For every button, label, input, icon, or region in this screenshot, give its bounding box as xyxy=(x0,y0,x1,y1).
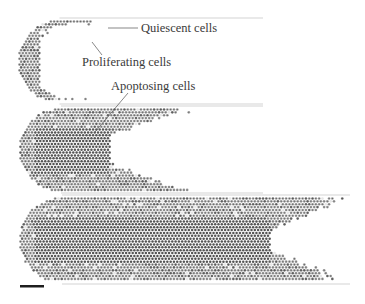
cell-nucleus xyxy=(60,264,61,265)
cell-nucleus xyxy=(30,247,31,248)
apoptosing-cell xyxy=(130,243,133,246)
apoptosing-cell xyxy=(145,217,148,220)
apoptosing-cell xyxy=(204,240,207,243)
apoptosing-cell xyxy=(120,243,123,246)
apoptosing-cell xyxy=(240,235,243,238)
apoptosing-cell xyxy=(82,151,85,154)
apoptosing-cell xyxy=(209,237,212,240)
apoptosing-cell xyxy=(183,232,186,235)
cell-nucleus xyxy=(144,115,145,116)
apoptosing-cell xyxy=(98,229,101,232)
apoptosing-cell xyxy=(151,252,154,255)
cell-nucleus xyxy=(286,204,287,205)
cell-nucleus xyxy=(306,267,307,268)
apoptosing-cell xyxy=(150,249,153,252)
cell-nucleus xyxy=(116,207,117,208)
apoptosing-cell xyxy=(97,131,100,134)
cell-nucleus xyxy=(34,78,35,79)
apoptosing-cell xyxy=(117,220,120,223)
apoptosing-cell xyxy=(151,235,154,238)
apoptosing-cell xyxy=(214,223,217,226)
apoptosing-cell xyxy=(138,258,141,261)
cell-nucleus xyxy=(33,218,34,219)
cell-nucleus xyxy=(124,109,125,110)
cell-nucleus xyxy=(243,204,244,205)
cell-nucleus xyxy=(66,187,67,188)
cell-nucleus xyxy=(24,56,25,57)
cell-nucleus xyxy=(315,198,316,199)
apoptosing-cell xyxy=(158,240,161,243)
cell-nucleus xyxy=(276,221,277,222)
apoptosing-cell xyxy=(103,232,106,235)
cell-nucleus xyxy=(37,61,38,62)
cell-nucleus xyxy=(266,215,267,216)
apoptosing-cell xyxy=(95,229,98,232)
cell-nucleus xyxy=(70,207,71,208)
cell-nucleus xyxy=(129,264,130,265)
apoptosing-cell xyxy=(108,163,111,166)
apoptosing-cell xyxy=(97,137,100,140)
cell-nucleus xyxy=(136,201,137,202)
cell-nucleus xyxy=(276,198,277,199)
cell-nucleus xyxy=(34,38,35,39)
cell-nucleus xyxy=(76,181,77,182)
apoptosing-cell xyxy=(237,252,240,255)
apoptosing-cell xyxy=(173,232,176,235)
cell-nucleus xyxy=(287,201,288,202)
cell-nucleus xyxy=(144,278,145,279)
empty-site xyxy=(303,275,306,278)
cell-nucleus xyxy=(178,276,179,277)
cell-nucleus xyxy=(106,207,107,208)
apoptosing-cell xyxy=(100,249,103,252)
cell-nucleus xyxy=(98,109,99,110)
cell-nucleus xyxy=(185,270,186,271)
apoptosing-cell xyxy=(89,151,92,154)
apoptosing-cell xyxy=(42,140,45,143)
cell-nucleus xyxy=(88,178,89,179)
cell-nucleus xyxy=(20,247,21,248)
cell-nucleus xyxy=(31,61,32,62)
cell-nucleus xyxy=(164,273,165,274)
cell-nucleus xyxy=(75,115,76,116)
apoptosing-cell xyxy=(77,226,80,229)
apoptosing-cell xyxy=(202,249,205,252)
cell-nucleus xyxy=(101,115,102,116)
cell-nucleus xyxy=(200,215,201,216)
apoptosing-cell xyxy=(36,163,39,166)
apoptosing-cell xyxy=(262,249,265,252)
apoptosing-cell xyxy=(49,229,52,232)
cell-nucleus xyxy=(203,210,204,211)
apoptosing-cell xyxy=(148,258,151,261)
cell-nucleus xyxy=(282,273,283,274)
cell-nucleus xyxy=(139,187,140,188)
apoptosing-cell xyxy=(67,166,70,169)
cell-nucleus xyxy=(175,264,176,265)
cell-nucleus xyxy=(51,189,52,190)
empty-site xyxy=(240,206,243,209)
cell-nucleus xyxy=(142,118,143,119)
cell-nucleus xyxy=(134,198,135,199)
cell-nucleus xyxy=(32,121,33,122)
cell-nucleus xyxy=(98,278,99,279)
cell-nucleus xyxy=(81,189,82,190)
cell-nucleus xyxy=(157,215,158,216)
apoptosing-cell xyxy=(138,229,141,232)
cell-nucleus xyxy=(266,204,267,205)
cell-nucleus xyxy=(45,115,46,116)
apoptosing-cell xyxy=(36,146,39,149)
cell-nucleus xyxy=(70,187,71,188)
cell-nucleus xyxy=(157,204,158,205)
apoptosing-cell xyxy=(84,137,87,140)
apoptosing-cell xyxy=(59,146,62,149)
apoptosing-cell xyxy=(42,146,45,149)
apoptosing-cell xyxy=(232,243,235,246)
apoptosing-cell xyxy=(87,131,90,134)
cell-nucleus xyxy=(210,204,211,205)
apoptosing-cell xyxy=(98,163,101,166)
cell-nucleus xyxy=(297,218,298,219)
cell-nucleus xyxy=(208,201,209,202)
apoptosing-cell xyxy=(209,232,212,235)
apoptosing-cell xyxy=(82,235,85,238)
cell-nucleus xyxy=(231,212,232,213)
apoptosing-cell xyxy=(153,226,156,229)
